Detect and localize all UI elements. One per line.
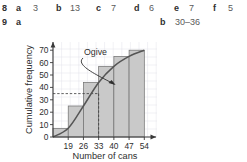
x-tick-label-19: 19 — [64, 141, 74, 151]
x-tick-label-26: 26 — [79, 141, 89, 151]
answer-9a-letter: a — [16, 15, 21, 29]
y-tick-label-30: 30 — [39, 95, 49, 105]
answer-row-8: 8 a 3 b 13 c 7 d 6 e 7 f 5 — [0, 1, 247, 15]
chart-svg: 010203040506070 192633404754 Cumulative … — [22, 18, 168, 162]
y-tick-label-40: 40 — [39, 82, 49, 92]
y-tick-label-50: 50 — [39, 70, 49, 80]
y-tick-label-0: 0 — [44, 132, 49, 142]
y-axis-title: Cumulative frequency — [24, 45, 34, 134]
x-tick-label-33: 33 — [94, 141, 104, 151]
answer-9b-value: 30–36 — [175, 15, 200, 29]
x-tick-label-47: 47 — [124, 141, 134, 151]
question-number-8: 8 — [2, 1, 7, 15]
answer-8f-letter: f — [213, 1, 216, 15]
ogive-chart: 010203040506070 192633404754 Cumulative … — [22, 18, 168, 162]
answer-8d-letter: d — [134, 1, 140, 15]
y-axis-arrowhead — [51, 42, 56, 48]
answer-8e-letter: e — [174, 1, 179, 15]
answer-8b-value: 13 — [70, 1, 80, 15]
bar-33 — [83, 82, 98, 137]
x-axis-arrowhead — [151, 135, 157, 140]
question-number-9: 9 — [2, 15, 7, 29]
bar-54 — [129, 50, 144, 137]
y-tick-label-10: 10 — [39, 120, 49, 130]
answer-8b-letter: b — [56, 1, 62, 15]
y-tick-label-20: 20 — [39, 107, 49, 117]
answer-8e-value: 7 — [189, 1, 194, 15]
answer-8a-value: 3 — [33, 1, 38, 15]
bar-47 — [114, 56, 129, 137]
x-axis-ticks: 192633404754 — [64, 137, 150, 151]
x-tick-label-54: 54 — [140, 141, 150, 151]
y-tick-label-60: 60 — [39, 58, 49, 68]
ogive-annotation-label: Ogive — [84, 47, 107, 57]
answer-8f-value: 5 — [228, 1, 233, 15]
x-tick-label-40: 40 — [109, 141, 119, 151]
answer-8c-value: 7 — [111, 1, 116, 15]
answer-8c-letter: c — [96, 1, 101, 15]
x-axis-title: Number of cans — [73, 151, 138, 161]
y-axis-ticks: 010203040506070 — [39, 45, 53, 142]
answer-8a-letter: a — [16, 1, 21, 15]
y-tick-label-70: 70 — [39, 45, 49, 55]
answer-8d-value: 6 — [149, 1, 154, 15]
